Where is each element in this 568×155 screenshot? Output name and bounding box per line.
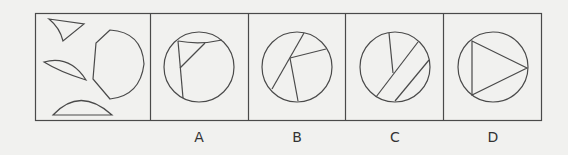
option-d-figure[interactable]	[458, 32, 528, 102]
option-label-a[interactable]: A	[189, 129, 209, 145]
piece-lens	[44, 60, 86, 80]
piece-triangle	[49, 19, 84, 41]
option-label-d[interactable]: D	[483, 129, 503, 145]
option-a-figure[interactable]	[164, 32, 234, 102]
option-c-figure[interactable]	[360, 32, 430, 102]
question-panel	[44, 19, 144, 115]
option-label-c[interactable]: C	[385, 129, 405, 145]
option-b-figure[interactable]	[262, 32, 332, 102]
option-label-b[interactable]: B	[287, 129, 307, 145]
piece-segment	[53, 101, 112, 116]
piece-large	[93, 30, 144, 99]
